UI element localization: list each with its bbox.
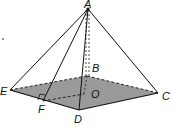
label-A: A [84,0,91,10]
pyramid-diagram: A B C D E F O [0,0,173,127]
label-F: F [38,104,45,115]
label-E: E [0,86,7,97]
pyramid-figure [0,0,173,127]
label-B: B [92,63,99,74]
stray-dot [2,38,4,40]
label-C: C [162,91,170,102]
label-D: D [74,114,82,125]
label-O: O [91,89,100,100]
